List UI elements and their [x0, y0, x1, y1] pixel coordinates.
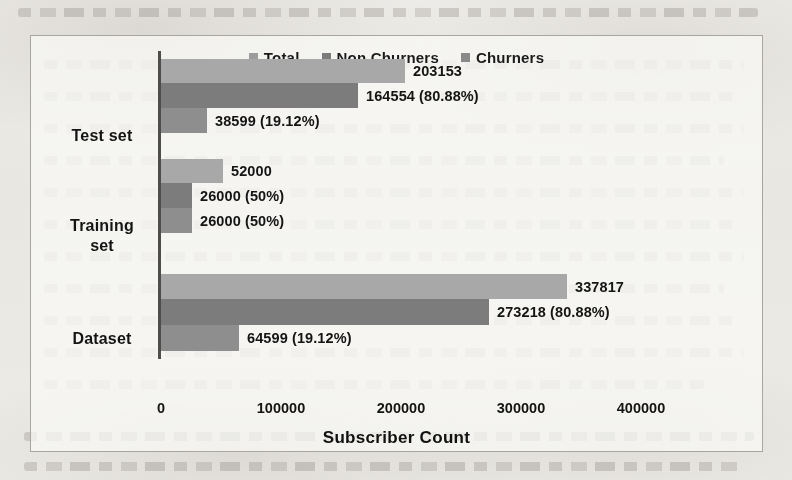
bar-row-test-non-churners[interactable]: 164554 (80.88%) — [161, 83, 734, 108]
bar-label-train-total: 52000 — [231, 163, 272, 179]
x-tick-0: 0 — [157, 400, 165, 416]
page-ghost-text — [18, 8, 758, 17]
x-tick-200000: 200000 — [377, 400, 425, 416]
bar-group-dataset: 337817 273218 (80.88%) 64599 (19.12%) — [161, 274, 734, 351]
bar-label-data-total: 337817 — [575, 279, 624, 295]
bar-label-train-churners: 26000 (50%) — [200, 213, 284, 229]
category-label-training-set-line1: Training — [70, 217, 134, 234]
category-label-training-set: Training set — [46, 216, 158, 256]
x-axis-title: Subscriber Count — [31, 428, 762, 448]
bar-row-data-total[interactable]: 337817 — [161, 274, 734, 299]
category-label-dataset: Dataset — [46, 329, 158, 349]
bar-row-train-churners[interactable]: 26000 (50%) — [161, 208, 734, 233]
bar-group-training-set: 52000 26000 (50%) 26000 (50%) — [161, 159, 734, 233]
bar-train-non-churners[interactable] — [161, 183, 192, 208]
bar-label-data-churners: 64599 (19.12%) — [247, 330, 352, 346]
bar-data-churners[interactable] — [161, 325, 239, 351]
bar-row-data-churners[interactable]: 64599 (19.12%) — [161, 325, 734, 351]
bar-data-non-churners[interactable] — [161, 299, 489, 325]
x-tick-100000: 100000 — [257, 400, 305, 416]
x-tick-400000: 400000 — [617, 400, 665, 416]
category-label-test-set: Test set — [46, 126, 158, 146]
bar-label-test-total: 203153 — [413, 63, 462, 79]
bar-label-data-non-churners: 273218 (80.88%) — [497, 304, 610, 320]
x-tick-300000: 300000 — [497, 400, 545, 416]
page-ghost-text — [24, 462, 744, 471]
bar-row-test-churners[interactable]: 38599 (19.12%) — [161, 108, 734, 133]
bar-data-total[interactable] — [161, 274, 567, 299]
bar-train-total[interactable] — [161, 159, 223, 183]
bar-test-churners[interactable] — [161, 108, 207, 133]
x-axis-tick-labels: 0 100000 200000 300000 400000 — [158, 400, 734, 422]
bar-label-train-non-churners: 26000 (50%) — [200, 188, 284, 204]
bar-group-test-set: 203153 164554 (80.88%) 38599 (19.12%) — [161, 59, 734, 133]
bar-row-data-non-churners[interactable]: 273218 (80.88%) — [161, 299, 734, 325]
bar-label-test-non-churners: 164554 (80.88%) — [366, 88, 479, 104]
bar-label-test-churners: 38599 (19.12%) — [215, 113, 320, 129]
bar-test-non-churners[interactable] — [161, 83, 358, 108]
category-label-training-set-line2: set — [90, 237, 114, 254]
bar-row-train-non-churners[interactable]: 26000 (50%) — [161, 183, 734, 208]
y-axis-category-labels: Test set Training set Dataset — [31, 94, 158, 394]
chart-container: Total Non Churners Churners Test set Tra… — [30, 35, 763, 452]
bar-row-test-total[interactable]: 203153 — [161, 59, 734, 83]
category-label-test-set-text: Test set — [72, 127, 133, 144]
bar-row-train-total[interactable]: 52000 — [161, 159, 734, 183]
bar-test-total[interactable] — [161, 59, 405, 83]
bar-train-churners[interactable] — [161, 208, 192, 233]
plot-area: 203153 164554 (80.88%) 38599 (19.12%) 52… — [158, 59, 734, 359]
category-label-dataset-text: Dataset — [72, 330, 131, 347]
